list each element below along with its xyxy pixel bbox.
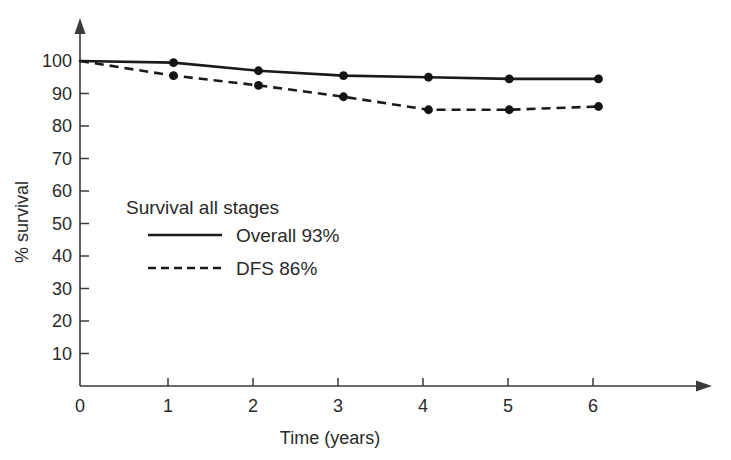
x-axis-title: Time (years) [280,428,380,448]
x-tick-label-0: 0 [75,396,85,416]
y-tick-label-40: 40 [52,246,72,266]
y-tick-label-70: 70 [52,149,72,169]
survival-chart-figure: 100 90 80 70 60 50 40 30 20 10 0 1 2 3 4 [0,0,731,460]
legend-label-dfs: DFS 86% [236,258,317,279]
y-tick-label-10: 10 [52,344,72,364]
y-tick-label-20: 20 [52,311,72,331]
y-tick-labels: 100 90 80 70 60 50 40 30 20 10 [42,51,72,364]
legend-title: Survival all stages [126,197,279,218]
data-point-dfs-3 [339,92,348,101]
x-tick-label-2: 2 [248,396,258,416]
legend-label-overall: Overall 93% [236,225,340,246]
data-point-dfs-5 [505,105,514,114]
data-point-dfs-2 [254,81,263,90]
x-tick-label-5: 5 [503,396,513,416]
y-tick-label-80: 80 [52,116,72,136]
chart-svg: 100 90 80 70 60 50 40 30 20 10 0 1 2 3 4 [0,0,731,460]
x-tick-label-4: 4 [418,396,428,416]
y-tick-label-100: 100 [42,51,72,71]
data-point-overall-2 [254,66,263,75]
x-axis-arrowhead [696,381,712,392]
data-point-overall-5 [505,74,514,83]
x-tick-label-3: 3 [333,396,343,416]
y-axis [75,18,86,386]
y-tick-label-30: 30 [52,279,72,299]
data-point-overall-1 [169,58,178,67]
y-axis-title: % survival [12,181,32,263]
data-point-overall-3 [339,71,348,80]
x-axis [80,381,712,392]
x-tick-label-1: 1 [163,396,173,416]
y-tick-marks [80,61,89,354]
legend: Survival all stages Overall 93% DFS 86% [126,197,340,279]
data-point-dfs-1 [169,71,178,80]
data-series-group [80,58,603,114]
x-tick-label-6: 6 [588,396,598,416]
y-tick-label-60: 60 [52,181,72,201]
y-tick-label-90: 90 [52,84,72,104]
series-line-dfs [80,61,599,110]
data-point-dfs-4 [424,105,433,114]
x-tick-labels: 0 1 2 3 4 5 6 [75,396,598,416]
x-tick-marks [168,378,593,386]
y-tick-label-50: 50 [52,214,72,234]
y-axis-arrowhead [75,18,86,34]
data-point-overall-6 [594,74,603,83]
data-point-overall-4 [424,73,433,82]
data-point-dfs-6 [594,102,603,111]
